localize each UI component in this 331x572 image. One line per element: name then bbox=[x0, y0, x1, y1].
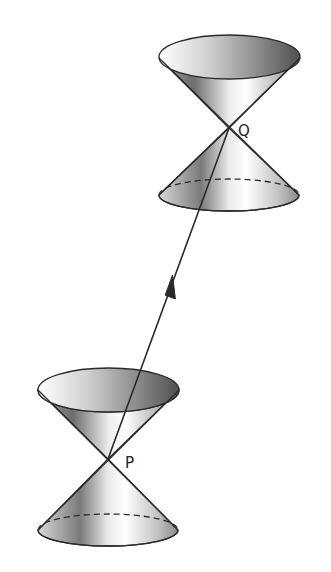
future-cone-p-opening bbox=[38, 368, 179, 412]
event-label-q: Q bbox=[238, 122, 250, 140]
past-cone-q-surface bbox=[159, 128, 299, 211]
light-cone-diagram: Q P bbox=[0, 0, 331, 572]
worldline bbox=[108, 128, 229, 459]
past-cone-p-surface bbox=[38, 459, 178, 546]
event-label-p: P bbox=[125, 454, 134, 472]
future-cone-q-opening bbox=[159, 35, 300, 79]
light-cone-q: Q bbox=[159, 35, 300, 211]
